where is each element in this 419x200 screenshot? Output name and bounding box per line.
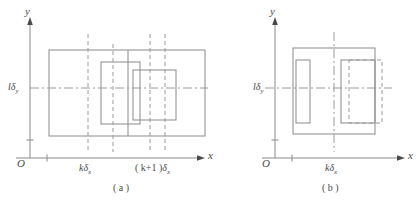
figure-diagram (0, 0, 419, 200)
panel-a-inner-rect-left (101, 62, 140, 124)
panel-b-origin-label: O (262, 158, 270, 169)
panel-b (262, 17, 405, 162)
panel-b-y-axis-label: y (270, 6, 275, 17)
panel-a (16, 17, 208, 162)
panel-a-caption: ( a ) (113, 183, 129, 193)
panel-a-origin-label: O (17, 158, 25, 169)
panel-a-x-tick-1-sub: x (88, 168, 91, 176)
panel-b-y-tick-label: lδy (253, 82, 264, 95)
panel-a-y-tick-label: lδy (8, 82, 19, 95)
panel-b-x-axis (262, 155, 405, 161)
panel-a-x-tick-2-sub: x (167, 168, 170, 176)
panel-a-y-axis-label: y (25, 6, 30, 17)
panel-b-inner-rect-left (296, 60, 310, 123)
panel-a-x-tick-2-base: ( k+1 ) (135, 162, 162, 173)
panel-b-y-tick-sub: y (260, 87, 263, 95)
panel-b-dashed-rect (349, 60, 382, 123)
panel-a-inner-rect-right (133, 70, 176, 120)
panel-b-caption: ( b ) (322, 183, 339, 193)
panel-b-inner-rect-right (341, 60, 375, 123)
panel-a-x-axis-label: x (208, 150, 213, 161)
panel-a-x-tick-label-2: ( k+1 )δx (135, 163, 170, 176)
panel-a-outer-rect (49, 50, 205, 136)
panel-a-y-tick-sub: y (15, 87, 18, 95)
panel-b-x-tick-1-sub: x (334, 168, 337, 176)
panel-a-x-axis (16, 155, 205, 161)
panel-b-x-tick-label-1: kδx (325, 163, 337, 176)
panel-a-x-tick-label-1: kδx (79, 163, 91, 176)
panel-b-x-axis-label: x (408, 150, 413, 161)
